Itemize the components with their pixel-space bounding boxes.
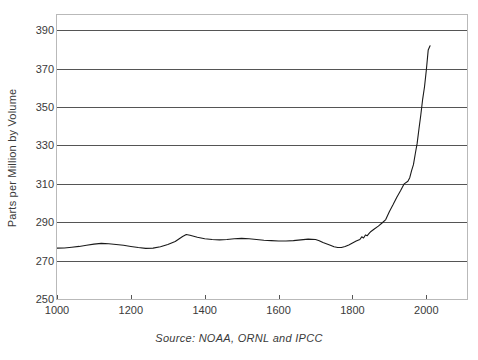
x-tick-label: 1000	[45, 304, 69, 316]
co2-concentration-chart: Parts per Million by Volume 250270290310…	[0, 0, 478, 360]
y-tick-label: 310	[36, 178, 54, 190]
source-caption: Source: NOAA, ORNL and IPCC	[0, 332, 478, 344]
y-tick-label: 330	[36, 139, 54, 151]
x-tick-label: 1600	[266, 304, 290, 316]
x-axis-tick-labels: 100012001400160018002000	[0, 304, 478, 320]
x-tick-label: 2000	[414, 304, 438, 316]
plot-svg	[57, 15, 467, 299]
x-tick-label: 1200	[119, 304, 143, 316]
y-axis-tick-labels: 250270290310330350370390	[22, 14, 54, 300]
y-tick-label: 290	[36, 216, 54, 228]
data-series-line	[57, 46, 430, 249]
x-axis-tick-marks	[58, 295, 427, 299]
y-tick-label: 270	[36, 255, 54, 267]
horizontal-gridlines	[57, 31, 467, 300]
y-tick-label: 350	[36, 101, 54, 113]
y-tick-label: 370	[36, 63, 54, 75]
y-tick-label: 390	[36, 24, 54, 36]
x-tick-label: 1400	[192, 304, 216, 316]
data-series-group	[57, 46, 430, 249]
plot-area	[56, 14, 468, 300]
x-tick-label: 1800	[340, 304, 364, 316]
